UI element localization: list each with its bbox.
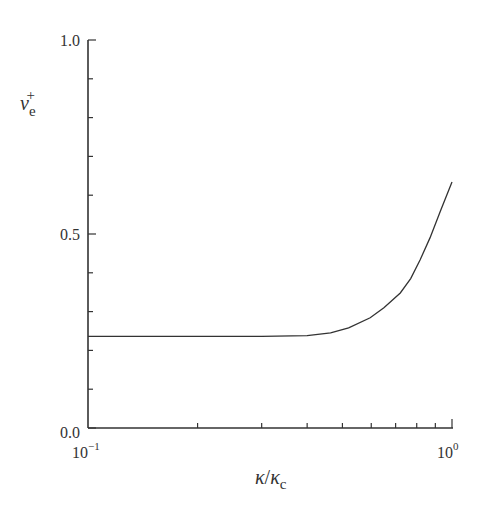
- data-series-line: [88, 182, 452, 336]
- x-tick-label-10-neg1: 10−1: [72, 440, 100, 461]
- y-tick-label-0-5: 0.5: [60, 226, 80, 243]
- x-axis-label: κ/κc: [255, 466, 287, 492]
- y-axis-label: νe+: [20, 87, 36, 119]
- y-ticks: [88, 40, 96, 428]
- y-tick-label-0-0: 0.0: [60, 424, 80, 441]
- x-ticks: [198, 419, 452, 428]
- y-tick-label-1-0: 1.0: [60, 32, 80, 49]
- x-tick-label-10-0: 100: [437, 440, 459, 461]
- axes: [88, 40, 453, 428]
- chart-canvas: 1.0 0.5 0.0 10−1 100 κ/κc νe+: [0, 0, 491, 511]
